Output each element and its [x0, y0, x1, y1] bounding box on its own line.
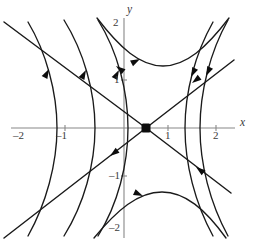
y-tick-label-2: 2 [113, 17, 119, 28]
phase-portrait-canvas [0, 0, 258, 247]
y-tick-label-neg2: –2 [109, 222, 120, 233]
trajectory-left-outer [28, 22, 57, 236]
y-tick-label-neg1: –1 [109, 170, 120, 181]
trajectory-right-inner [185, 22, 213, 236]
y-axis-label: y [127, 4, 132, 16]
x-tick-label-neg2: –2 [13, 130, 24, 141]
saddle-point-marker [142, 124, 151, 133]
x-tick-label-2: 2 [213, 130, 219, 141]
flow-arrow-right-outer [203, 66, 213, 77]
x-axis-label: x [240, 117, 245, 129]
axes-group [11, 18, 235, 238]
phase-portrait-figure: –2 –1 1 2 2 1 –1 –2 x y [0, 0, 258, 247]
y-tick-label-1: 1 [114, 74, 120, 85]
x-tick-label-neg1: –1 [56, 130, 67, 141]
x-tick-label-1: 1 [165, 130, 171, 141]
